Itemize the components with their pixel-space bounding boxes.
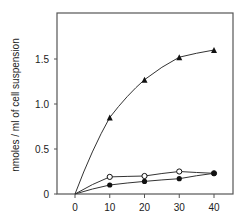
plot-frame [57, 13, 233, 194]
y-tick-label: 0 [43, 189, 49, 200]
y-tick-label: 1.5 [35, 54, 49, 65]
x-tick-label: 30 [174, 202, 186, 213]
x-tick-label: 10 [104, 202, 116, 213]
data-markers [107, 47, 217, 188]
y-axis-label: nmoles / ml of cell suspension [10, 38, 21, 171]
x-tick-label: 20 [139, 202, 151, 213]
filled-circle-marker [211, 171, 216, 176]
y-tick-label: 0.5 [35, 144, 49, 155]
open-circle-marker [142, 173, 147, 178]
open-circle-marker [107, 174, 112, 179]
data-curves [75, 50, 214, 194]
chart: 01020304000.51.01.5 nmoles / ml of cell … [0, 0, 248, 221]
y-tick-label: 1.0 [35, 99, 49, 110]
triangle-marker [176, 54, 182, 60]
filled-circle-marker [177, 176, 182, 181]
x-tick-label: 0 [72, 202, 78, 213]
x-tick-label: 40 [208, 202, 220, 213]
filled-circle-marker [142, 179, 147, 184]
open-circle-marker [177, 169, 182, 174]
filled-circle-marker [107, 182, 112, 187]
axis-ticks: 01020304000.51.01.5 [35, 54, 220, 213]
